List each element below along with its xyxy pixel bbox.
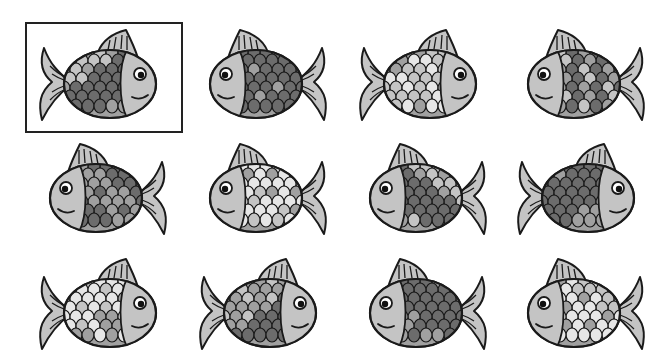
fish-7[interactable]: [348, 138, 498, 248]
fish-3[interactable]: [348, 24, 498, 134]
fish-drawing: [506, 138, 656, 248]
fish-drawing: [28, 253, 178, 363]
fish-11[interactable]: [348, 253, 498, 363]
fish-12[interactable]: [506, 253, 656, 363]
fish-8[interactable]: [506, 138, 656, 248]
fish-drawing: [188, 138, 338, 248]
fish-4[interactable]: [506, 24, 656, 134]
fish-6[interactable]: [188, 138, 338, 248]
fish-drawing: [348, 24, 498, 134]
fish-1[interactable]: [28, 24, 178, 134]
fish-drawing: [188, 24, 338, 134]
fish-drawing: [28, 138, 178, 248]
fish-2[interactable]: [188, 24, 338, 134]
fish-drawing: [188, 253, 338, 363]
fish-drawing: [348, 253, 498, 363]
fish-5[interactable]: [28, 138, 178, 248]
fish-10[interactable]: [188, 253, 338, 363]
fish-drawing: [506, 24, 656, 134]
fish-drawing: [348, 138, 498, 248]
fish-drawing: [28, 24, 178, 134]
fish-drawing: [506, 253, 656, 363]
fish-9[interactable]: [28, 253, 178, 363]
